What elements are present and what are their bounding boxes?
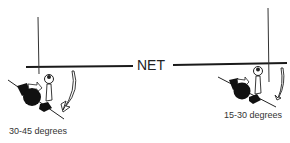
net-line — [173, 63, 287, 65]
left-player-figure — [8, 75, 64, 120]
left-swing-arrow — [61, 71, 76, 112]
right-swing-arrow — [275, 68, 284, 100]
right-angle-label: 15-30 degrees — [224, 110, 282, 120]
net-label: NET — [134, 58, 168, 72]
right-court-line — [268, 8, 269, 82]
left-court-line — [38, 17, 39, 74]
net-line — [26, 66, 133, 67]
left-angle-label: 30-45 degrees — [9, 126, 67, 136]
right-player-figure — [218, 67, 276, 108]
